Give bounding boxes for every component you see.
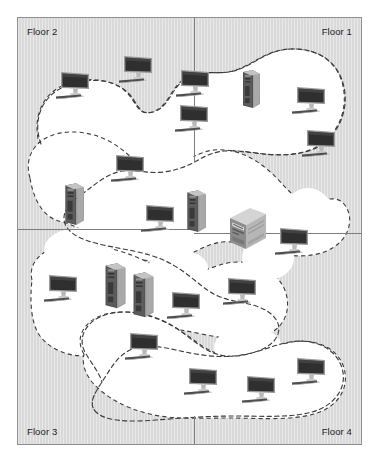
device-tower-server-d5[interactable] bbox=[240, 68, 262, 110]
device-mainframe-server-d12[interactable] bbox=[226, 206, 270, 252]
device-desktop-monitor-d13[interactable] bbox=[273, 226, 313, 260]
diagram-canvas: Floor 2 Floor 1 Floor 3 Floor 4 bbox=[0, 0, 377, 460]
device-tower-server-d15[interactable] bbox=[102, 261, 128, 311]
device-desktop-monitor-d7[interactable] bbox=[300, 128, 340, 162]
device-desktop-monitor-d21[interactable] bbox=[240, 374, 280, 408]
floor-label-floor2: Floor 2 bbox=[27, 26, 57, 37]
device-desktop-monitor-d10[interactable] bbox=[139, 203, 179, 237]
device-desktop-monitor-d14[interactable] bbox=[42, 273, 82, 307]
device-desktop-monitor-d8[interactable] bbox=[109, 153, 149, 187]
device-desktop-monitor-d19[interactable] bbox=[123, 331, 163, 365]
device-desktop-monitor-d3[interactable] bbox=[174, 68, 214, 102]
device-desktop-monitor-d2[interactable] bbox=[117, 54, 157, 88]
device-tower-server-d11[interactable] bbox=[184, 188, 208, 234]
device-tower-server-d16[interactable] bbox=[130, 270, 156, 320]
device-layer bbox=[18, 18, 361, 444]
device-desktop-monitor-d18[interactable] bbox=[221, 276, 261, 310]
device-desktop-monitor-d20[interactable] bbox=[182, 366, 222, 400]
device-desktop-monitor-d17[interactable] bbox=[165, 290, 205, 324]
floor-plan-container: Floor 2 Floor 1 Floor 3 Floor 4 bbox=[17, 17, 362, 445]
floor-label-floor4: Floor 4 bbox=[322, 426, 352, 437]
floor-label-floor3: Floor 3 bbox=[27, 426, 57, 437]
device-tower-server-d9[interactable] bbox=[62, 181, 86, 227]
device-desktop-monitor-d22[interactable] bbox=[290, 356, 330, 390]
device-desktop-monitor-d1[interactable] bbox=[54, 70, 94, 104]
device-desktop-monitor-d6[interactable] bbox=[290, 85, 330, 119]
floor-label-floor1: Floor 1 bbox=[322, 26, 352, 37]
device-desktop-monitor-d4[interactable] bbox=[173, 103, 213, 137]
